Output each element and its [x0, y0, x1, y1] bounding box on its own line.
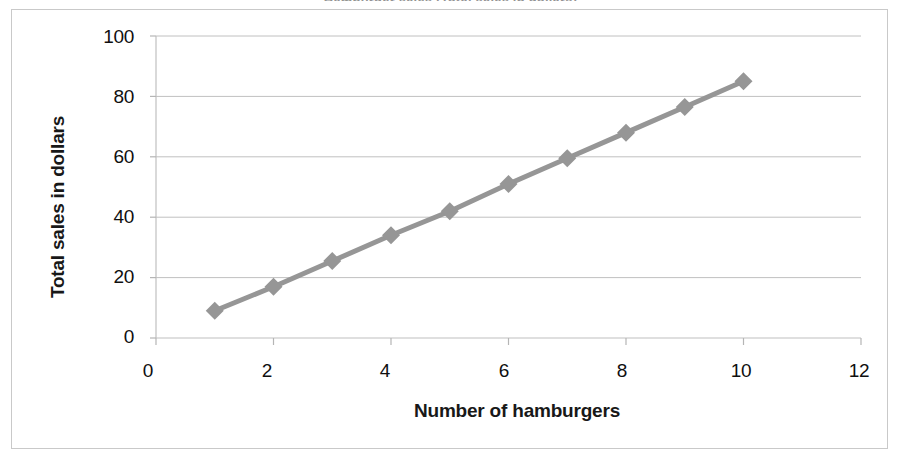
data-point-marker	[676, 98, 694, 116]
data-point-marker	[265, 278, 283, 296]
axis-ticks	[150, 36, 861, 345]
data-point-marker	[558, 149, 576, 167]
plot-area	[12, 10, 889, 450]
clipped-chart-title: Hamburger sales (Total sales in dollars)	[0, 0, 901, 1]
chart-frame: Total sales in dollars 100 80 60 40 20 0…	[11, 9, 888, 449]
data-line	[215, 81, 744, 310]
data-point-marker	[382, 226, 400, 244]
data-point-marker	[323, 252, 341, 270]
data-point-marker	[206, 302, 224, 320]
data-point-marker	[617, 124, 635, 142]
data-point-marker	[500, 175, 518, 193]
data-point-marker	[735, 72, 753, 90]
